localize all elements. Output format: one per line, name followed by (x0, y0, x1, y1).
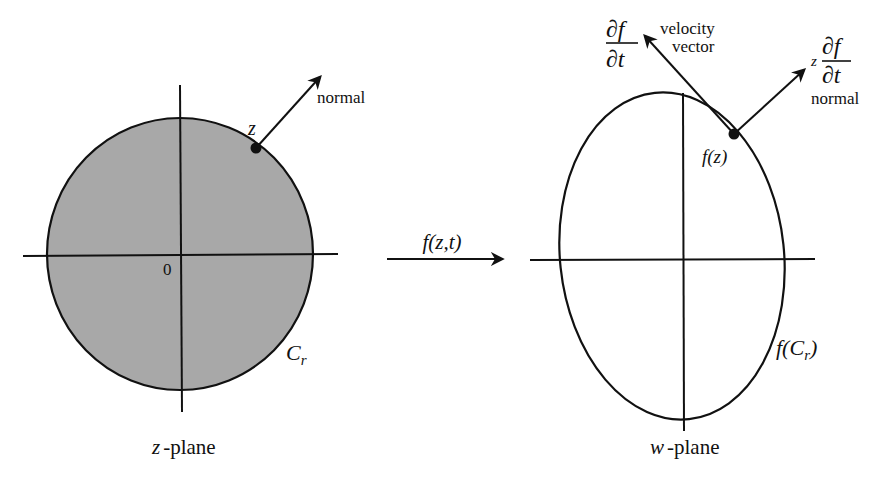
w-plane-caption: w-plane (650, 435, 720, 459)
z-plane-panel: z normal 0 Cr z-plane (23, 77, 365, 459)
image-curve-label: f(Cr) (776, 335, 817, 363)
velocity-numerator: ∂f (606, 16, 628, 42)
w-normal-arrow (734, 70, 804, 134)
point-fz-label: f(z) (702, 146, 727, 168)
w-imag-axis (683, 93, 684, 431)
z-normal-arrow (256, 77, 320, 148)
image-curve (543, 81, 800, 431)
normal-prefix-z: z (810, 53, 817, 69)
point-fz-dot (729, 129, 740, 140)
origin-label: 0 (163, 260, 172, 279)
velocity-text-line1: velocity (660, 19, 715, 38)
curve-cr-label: Cr (286, 340, 307, 368)
conformal-map-figure: z normal 0 Cr z-plane f(z,t) f(z) ∂f ∂t … (0, 0, 881, 485)
velocity-denominator: ∂t (606, 46, 626, 72)
w-normal-label: normal (811, 89, 859, 108)
z-normal-label: normal (317, 88, 365, 107)
point-z-label: z (247, 117, 256, 139)
mapping-label: f(z,t) (422, 230, 461, 254)
velocity-text-line2: vector (672, 37, 715, 56)
mapping-arrow-group: f(z,t) (387, 230, 502, 259)
normal-numerator: ∂f (822, 33, 844, 59)
w-real-axis (530, 259, 815, 260)
normal-denominator: ∂t (822, 62, 842, 88)
z-plane-caption: z-plane (151, 435, 216, 459)
w-plane-panel: f(z) ∂f ∂t velocity vector z ∂f ∂t norma… (530, 16, 859, 459)
